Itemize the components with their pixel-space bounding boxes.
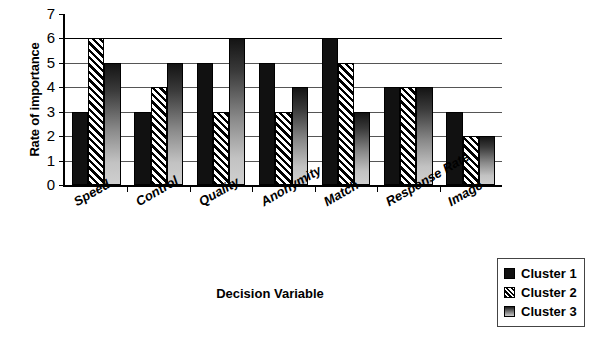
bar xyxy=(197,63,213,185)
bar xyxy=(322,38,338,185)
x-tick-mark xyxy=(190,185,191,192)
y-tick-mark xyxy=(59,161,65,162)
y-tick-label-0: 0 xyxy=(33,177,55,192)
y-tick-mark xyxy=(59,63,65,64)
bar xyxy=(151,87,167,185)
x-tick-mark xyxy=(315,185,316,192)
x-tick-mark xyxy=(252,185,253,192)
bar xyxy=(134,112,150,185)
y-tick-mark xyxy=(59,14,65,15)
bar xyxy=(384,87,400,185)
gridline xyxy=(65,38,502,39)
legend-swatch-icon xyxy=(504,306,515,317)
y-tick-label-7: 7 xyxy=(33,6,55,21)
y-tick-label-2: 2 xyxy=(33,128,55,143)
bar xyxy=(167,63,183,185)
bar-chart: Rate of importance 01234567 SpeedControl… xyxy=(0,0,602,343)
y-tick-label-1: 1 xyxy=(33,153,55,168)
bar xyxy=(229,38,245,185)
legend-item: Cluster 3 xyxy=(504,302,577,321)
bar xyxy=(338,63,354,185)
bar xyxy=(275,112,291,185)
y-tick-label-4: 4 xyxy=(33,79,55,94)
bar xyxy=(88,38,104,185)
bar xyxy=(354,112,370,185)
bar xyxy=(479,136,495,185)
legend-item: Cluster 1 xyxy=(504,264,577,283)
legend-label: Cluster 3 xyxy=(521,304,577,319)
y-tick-mark xyxy=(59,112,65,113)
bar xyxy=(72,112,88,185)
chart-legend: Cluster 1Cluster 2Cluster 3 xyxy=(497,258,585,327)
x-tick-mark xyxy=(127,185,128,192)
bar xyxy=(400,87,416,185)
plot-area xyxy=(63,14,502,187)
y-tick-label-6: 6 xyxy=(33,30,55,45)
legend-swatch-icon xyxy=(504,287,515,298)
y-tick-mark xyxy=(59,38,65,39)
gridline xyxy=(65,63,502,64)
legend-swatch-icon xyxy=(504,268,515,279)
x-tick-mark xyxy=(440,185,441,192)
bar xyxy=(213,112,229,185)
y-tick-mark xyxy=(59,136,65,137)
legend-label: Cluster 1 xyxy=(521,266,577,281)
y-tick-label-5: 5 xyxy=(33,55,55,70)
legend-item: Cluster 2 xyxy=(504,283,577,302)
bar xyxy=(259,63,275,185)
y-tick-label-3: 3 xyxy=(33,104,55,119)
bar xyxy=(104,63,120,185)
gridline xyxy=(65,87,502,88)
y-tick-mark xyxy=(59,185,65,186)
y-tick-mark xyxy=(59,87,65,88)
x-tick-mark xyxy=(377,185,378,192)
legend-label: Cluster 2 xyxy=(521,285,577,300)
x-axis-title: Decision Variable xyxy=(150,286,390,301)
